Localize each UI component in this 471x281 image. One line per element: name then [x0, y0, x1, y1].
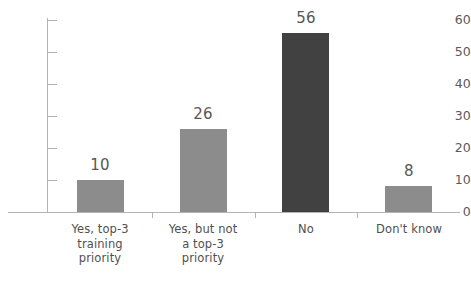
bar-chart: 0102030405060 1026568 Yes, top-3training…: [0, 0, 471, 281]
category-label-line: priority: [45, 251, 155, 266]
category-label-line: Yes, but not: [148, 222, 258, 237]
plot-area: [49, 20, 460, 212]
category-label-line: training: [45, 237, 155, 252]
x-axis-category-label: Yes, but nota top-3priority: [148, 222, 258, 266]
x-axis-tick: [255, 213, 256, 218]
bar-value-label: 56: [266, 11, 346, 26]
x-axis-line: [8, 212, 460, 213]
category-label-line: a top-3: [148, 237, 258, 252]
category-label-line: Don't know: [354, 222, 464, 237]
bar: [385, 186, 432, 212]
category-label-line: Yes, top-3: [45, 222, 155, 237]
bar-value-label: 8: [369, 164, 449, 179]
x-axis-tick: [357, 213, 358, 218]
bar-value-label: 10: [60, 158, 140, 173]
category-label-line: priority: [148, 251, 258, 266]
bar-value-label: 26: [163, 107, 243, 122]
x-axis-category-label: Yes, top-3trainingpriority: [45, 222, 155, 266]
x-axis-tick: [152, 213, 153, 218]
x-axis-category-label: Don't know: [354, 222, 464, 237]
bar: [180, 129, 227, 212]
x-axis-category-label: No: [251, 222, 361, 237]
category-label-line: No: [251, 222, 361, 237]
bar: [77, 180, 124, 212]
bar: [282, 33, 329, 212]
